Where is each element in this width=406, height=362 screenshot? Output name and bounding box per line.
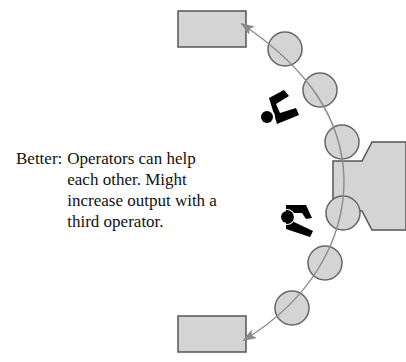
station-1	[268, 32, 302, 66]
input-box	[178, 11, 246, 47]
operator-icon	[260, 90, 300, 125]
operator-icon	[280, 205, 314, 237]
workcell-diagram	[0, 0, 406, 362]
station-6	[275, 291, 309, 325]
output-box	[178, 316, 246, 352]
station-5	[308, 246, 342, 280]
station-2	[303, 73, 337, 107]
